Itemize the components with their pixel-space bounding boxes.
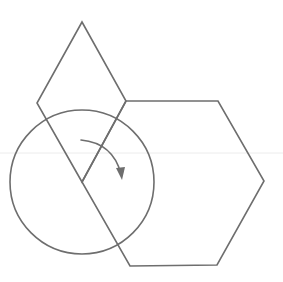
rotation-arrow-icon — [81, 140, 121, 174]
diagram-canvas — [0, 0, 283, 282]
rhombus-shape — [37, 22, 126, 182]
hexagon-shape — [82, 101, 264, 266]
arrowhead-icon — [116, 167, 125, 180]
geometry-figure — [0, 0, 283, 282]
